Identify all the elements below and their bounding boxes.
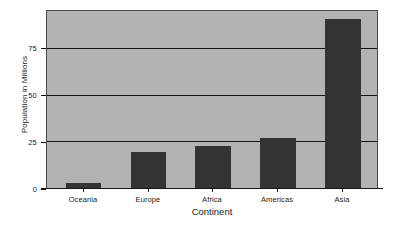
bar-asia[interactable] — [325, 19, 361, 188]
y-axis-title: Population in Millions — [20, 25, 29, 165]
ytick-mark-0 — [41, 189, 46, 190]
bar-americas[interactable] — [260, 138, 296, 188]
chart-figure: 0 25 50 75 Population in Millions Oceani… — [0, 0, 394, 228]
xtick-mark-asia — [342, 189, 343, 192]
x-axis-title: Continent — [46, 206, 378, 217]
xtick-label-americas: Americas — [247, 195, 307, 204]
xtick-label-europe: Europe — [118, 195, 178, 204]
bar-africa[interactable] — [195, 146, 231, 188]
plot-area — [46, 10, 378, 189]
ytick-mark-25 — [41, 142, 46, 143]
ytick-mark-50 — [41, 95, 46, 96]
xtick-label-asia: Asia — [312, 195, 372, 204]
xtick-mark-africa — [212, 189, 213, 192]
bar-europe[interactable] — [131, 152, 166, 188]
xtick-mark-europe — [148, 189, 149, 192]
ytick-label-0: 0 — [17, 185, 37, 194]
xtick-label-africa: Africa — [182, 195, 242, 204]
ytick-mark-75 — [41, 48, 46, 49]
xtick-label-oceania: Oceania — [53, 195, 113, 204]
xtick-mark-americas — [277, 189, 278, 192]
xtick-mark-oceania — [83, 189, 84, 192]
